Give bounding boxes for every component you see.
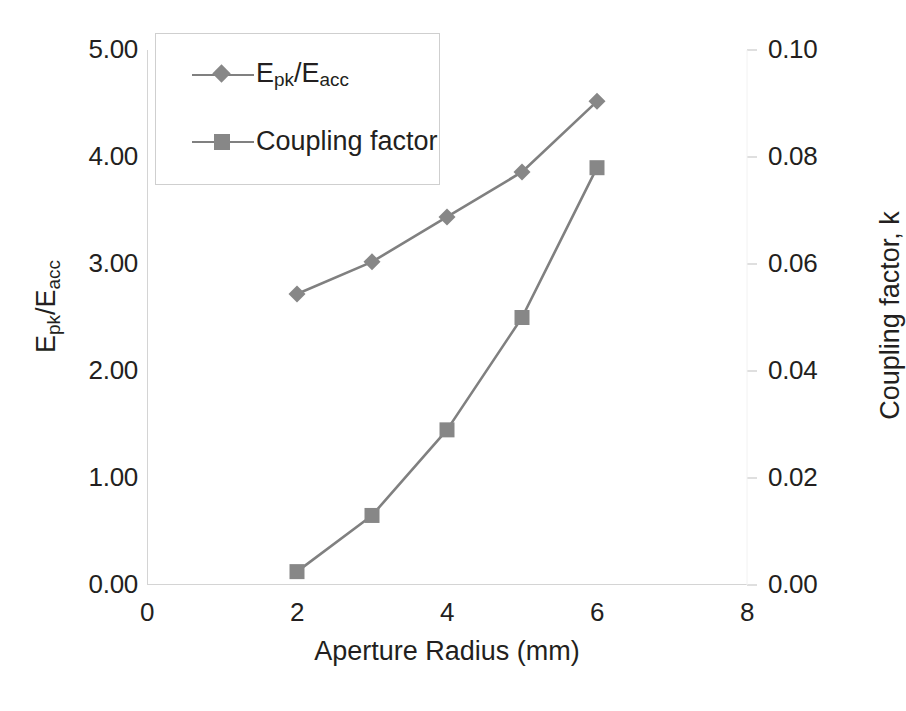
data-point	[365, 508, 380, 523]
legend-item-coupling-factor-label: Coupling factor	[256, 126, 438, 157]
legend-item-epk-eacc-label: Epk/Eacc	[256, 58, 349, 91]
y-axis-right-tick-label: 0.08	[768, 141, 858, 172]
y-axis-right-tick-label: 0.10	[768, 34, 858, 65]
y-axis-right-tick-label: 0.00	[768, 569, 858, 600]
legend-item-epk-eacc: Epk/Eacc	[192, 58, 349, 91]
y-axis-left-tick-label: 0.00	[58, 569, 138, 600]
x-axis-tick-label: 8	[717, 597, 777, 628]
x-axis-tick-label: 6	[567, 597, 627, 628]
y-axis-right-title: Coupling factor, k	[875, 186, 906, 446]
legend-epk-sub2: acc	[319, 69, 348, 90]
x-axis-tick-label: 4	[417, 597, 477, 628]
legend-epk-sub1: pk	[274, 69, 294, 90]
y-axis-left-tick-label: 2.00	[58, 355, 138, 386]
data-point	[440, 422, 455, 437]
x-axis-title: Aperture Radius (mm)	[147, 636, 747, 667]
y-left-title-mid: /E	[31, 290, 61, 316]
chart-legend: Epk/Eacc Coupling factor	[155, 33, 440, 185]
y-axis-right-tick-label: 0.06	[768, 248, 858, 279]
axis-tick-marks	[747, 50, 757, 585]
y-axis-right-tick-label: 0.02	[768, 462, 858, 493]
series-coupling-factor-line	[297, 168, 597, 572]
x-axis-tick-label: 0	[117, 597, 177, 628]
x-axis-tick-label: 2	[267, 597, 327, 628]
y-left-title-sub2: acc	[43, 260, 64, 289]
y-axis-left-tick-label: 1.00	[58, 462, 138, 493]
y-axis-left-tick-label: 5.00	[58, 34, 138, 65]
data-point	[590, 160, 605, 175]
legend-item-coupling-factor: Coupling factor	[192, 126, 438, 157]
data-point	[515, 310, 530, 325]
data-point	[289, 285, 306, 302]
y-left-title-pre: E	[31, 335, 61, 353]
y-axis-left-title: Epk/Eacc	[31, 207, 64, 407]
y-axis-left-tick-label: 3.00	[58, 248, 138, 279]
data-point	[364, 253, 381, 270]
data-point	[439, 208, 456, 225]
y-axis-left-tick-label: 4.00	[58, 141, 138, 172]
legend-epk-mid: /E	[294, 58, 320, 88]
data-point	[290, 564, 305, 579]
y-axis-right-tick-label: 0.04	[768, 355, 858, 386]
square-marker-icon	[192, 129, 254, 155]
legend-epk-pre: E	[256, 58, 274, 88]
y-left-title-sub1: pk	[43, 315, 64, 335]
diamond-marker-icon	[192, 62, 254, 88]
